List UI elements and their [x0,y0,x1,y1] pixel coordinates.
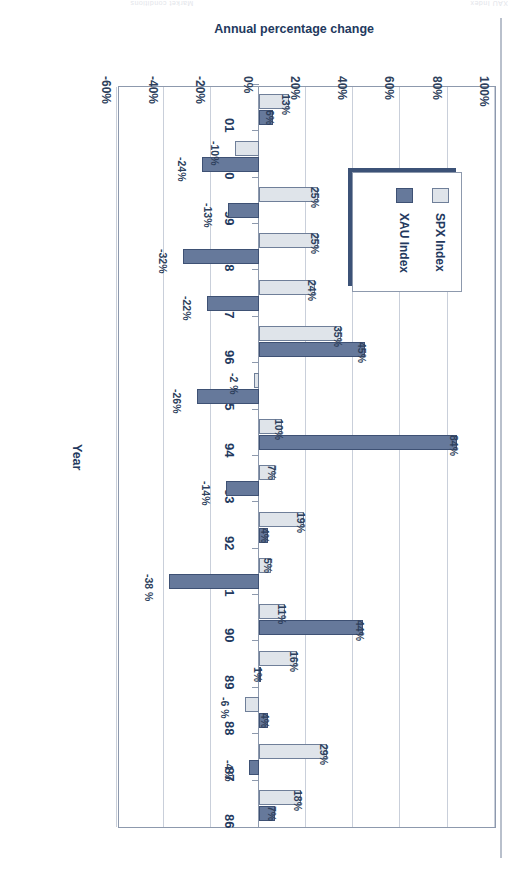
value-axis-tick-neg40pct: -40% [146,76,160,104]
bar-value-label-xau-94: 84% [448,435,460,456]
value-axis-tick-neg60pct: -60% [99,76,113,104]
category-label-88: 88 [222,721,237,735]
value-axis-title: Annual percentage change [214,22,374,36]
category-tick [252,270,259,271]
category-label-89: 89 [222,675,237,689]
bar-value-label-xau-88: 4% [259,713,271,728]
category-tick [252,130,259,131]
gridline-100pct [494,87,495,827]
chart-legend[interactable]: SPX Index XAU Index [352,172,462,292]
value-axis-tick-100pct: 100% [477,76,491,107]
gridline-neg60pct [116,87,117,827]
category-tick [252,362,259,363]
bar-value-label-spx-98: 25% [309,234,321,255]
value-axis-tick-neg20pct: -20% [194,76,208,104]
value-axis-tick-40pct: 40% [335,76,349,100]
category-label-01: 01 [222,118,237,132]
category-tick [252,223,259,224]
bar-xau-87[interactable] [249,760,258,775]
bar-value-label-xau-00: -24% [176,157,188,182]
bar-value-label-spx-92: 19% [295,512,307,533]
bar-value-label-spx-91: 5% [262,558,274,573]
bar-value-label-spx-00: -10% [209,141,221,166]
bar-value-label-xau-98: -32% [157,250,169,275]
bar-spx-87[interactable] [259,744,328,759]
bar-spx-00[interactable] [235,141,259,156]
bar-value-label-spx-87: 29% [318,744,330,765]
value-axis-tick-80pct: 80% [430,76,444,100]
value-axis-tick-60pct: 60% [383,76,397,100]
bar-value-label-spx-93: 7% [266,465,278,480]
category-tick [252,733,259,734]
category-tick [252,548,259,549]
bar-value-label-spx-94: 10% [273,419,285,440]
category-tick [252,780,259,781]
category-label-94: 94 [222,443,237,457]
category-tick [252,177,259,178]
bar-value-label-spx-90: 11% [276,605,288,625]
bar-xau-90[interactable] [259,621,363,636]
bar-value-label-xau-95: -26% [171,389,183,414]
category-tick [252,409,259,410]
bar-xau-94[interactable] [259,435,457,450]
legend-label-spx: SPX Index [433,213,447,272]
bar-xau-96[interactable] [259,342,365,357]
gridline-neg20pct [211,87,212,827]
category-tick [252,594,259,595]
value-axis-tick-20pct: 20% [288,76,302,100]
category-tick [252,687,259,688]
bar-spx-96[interactable] [259,326,342,341]
category-label-90: 90 [222,628,237,642]
category-label-96: 96 [222,350,237,364]
bar-xau-99[interactable] [228,203,259,218]
chart-figure: 867%18%87-4 %29%884%-6 %891%16%9044%11%9… [0,0,524,874]
bar-value-label-xau-91: -38 % [143,574,155,601]
bar-value-label-spx-97: 24% [306,280,318,301]
gridline-neg40pct [163,87,164,827]
category-tick [252,501,259,502]
bar-value-label-spx-89: 16% [288,651,300,672]
category-axis-title: Year [70,444,84,470]
bar-spx-95[interactable] [254,373,259,388]
category-tick [252,316,259,317]
bar-value-label-xau-96: 45% [356,342,368,363]
bar-value-label-xau-01: 6% [264,110,276,125]
category-label-86: 86 [222,814,237,828]
bar-spx-88[interactable] [245,697,259,712]
bar-value-label-spx-86: 18% [292,790,304,811]
bar-xau-93[interactable] [226,481,259,496]
bar-value-label-xau-86: 7% [266,806,278,821]
bar-value-label-xau-87: -4 % [223,760,235,782]
bar-value-label-xau-99: -13% [202,203,214,228]
legend-swatch-spx-icon [432,188,449,203]
bar-xau-98[interactable] [183,250,259,265]
page-edge-rule [500,18,502,858]
bar-value-label-xau-92: 4% [259,528,271,543]
category-label-92: 92 [222,536,237,550]
bar-value-label-spx-88: -6 % [219,697,231,719]
bar-value-label-xau-97: -22% [181,296,193,321]
bar-xau-97[interactable] [207,296,259,311]
legend-label-xau: XAU Index [397,213,411,273]
legend-swatch-xau-icon [396,188,413,203]
category-tick [252,641,259,642]
bar-value-label-xau-93: -14% [200,481,212,506]
bar-xau-91[interactable] [169,574,259,589]
bar-value-label-spx-95: -2 % [228,373,240,395]
category-tick [252,455,259,456]
bar-value-label-spx-96: 35% [332,326,344,347]
bar-value-label-xau-90: 44% [354,621,366,642]
value-axis-tick-0pct: 0% [241,76,255,93]
bar-value-label-xau-89: 1% [252,667,264,682]
bar-value-label-spx-99: 25% [309,187,321,208]
